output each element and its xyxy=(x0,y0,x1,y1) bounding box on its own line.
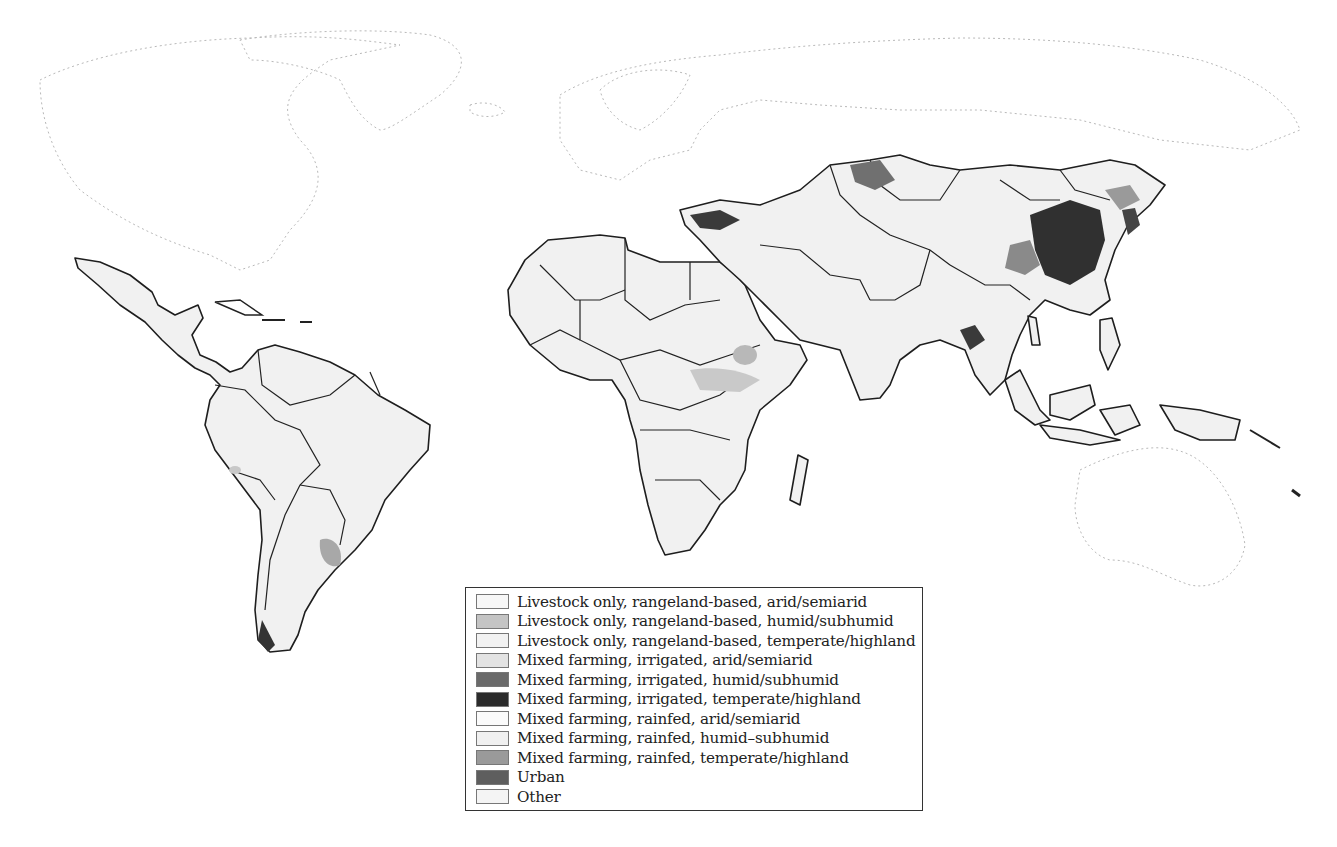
legend-label: Mixed farming, rainfed, humid–subhumid xyxy=(517,729,829,747)
legend-item: Mixed farming, rainfed, arid/semiarid xyxy=(476,709,922,729)
legend-item: Livestock only, rangeland-based, tempera… xyxy=(476,631,922,651)
australia-faint xyxy=(1075,448,1245,586)
legend-swatch xyxy=(476,711,509,726)
caribbean xyxy=(215,300,312,322)
europe-russia-faint xyxy=(560,38,1300,180)
legend-label: Livestock only, rangeland-based, arid/se… xyxy=(517,593,867,611)
southeast-asia xyxy=(1005,318,1300,496)
legend-swatch xyxy=(476,614,509,629)
legend-label: Livestock only, rangeland-based, humid/s… xyxy=(517,612,893,630)
legend-swatch xyxy=(476,731,509,746)
latin-america xyxy=(75,258,430,652)
legend-swatch xyxy=(476,633,509,648)
legend-item: Mixed farming, irrigated, temperate/high… xyxy=(476,690,922,710)
legend-label: Mixed farming, irrigated, humid/subhumid xyxy=(517,671,839,689)
legend-swatch xyxy=(476,789,509,804)
legend-label: Mixed farming, rainfed, arid/semiarid xyxy=(517,710,800,728)
legend-item: Mixed farming, rainfed, humid–subhumid xyxy=(476,729,922,749)
legend-item: Mixed farming, rainfed, temperate/highla… xyxy=(476,748,922,768)
north-america-faint xyxy=(40,31,505,270)
legend-label: Mixed farming, irrigated, temperate/high… xyxy=(517,690,861,708)
map-legend: Livestock only, rangeland-based, arid/se… xyxy=(465,587,923,811)
legend-label: Livestock only, rangeland-based, tempera… xyxy=(517,632,915,650)
legend-swatch xyxy=(476,770,509,785)
legend-swatch xyxy=(476,692,509,707)
legend-label: Mixed farming, irrigated, arid/semiarid xyxy=(517,651,813,669)
legend-item: Mixed farming, irrigated, arid/semiarid xyxy=(476,651,922,671)
legend-swatch xyxy=(476,653,509,668)
legend-item: Urban xyxy=(476,768,922,788)
legend-swatch xyxy=(476,672,509,687)
legend-item: Other xyxy=(476,787,922,807)
legend-swatch xyxy=(476,750,509,765)
legend-item: Livestock only, rangeland-based, arid/se… xyxy=(476,592,922,612)
legend-item: Mixed farming, irrigated, humid/subhumid xyxy=(476,670,922,690)
legend-label: Urban xyxy=(517,768,565,786)
legend-swatch xyxy=(476,594,509,609)
legend-label: Mixed farming, rainfed, temperate/highla… xyxy=(517,749,849,767)
legend-label: Other xyxy=(517,788,561,806)
legend-item: Livestock only, rangeland-based, humid/s… xyxy=(476,612,922,632)
